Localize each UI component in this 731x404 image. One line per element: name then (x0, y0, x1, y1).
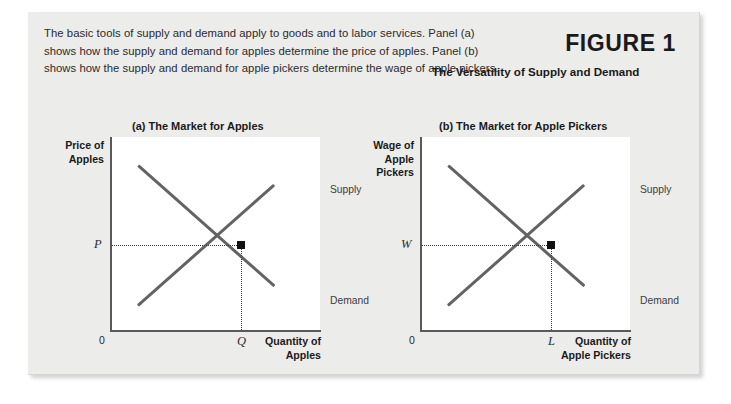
panel-a-equilibrium-point (237, 241, 245, 249)
panel-a-x-axis (110, 330, 321, 332)
panel-b-labor-guide (551, 245, 552, 330)
panel-a-y-axis-label: Price of Apples (34, 139, 104, 166)
panel-a-y-axis (110, 137, 112, 331)
panel-b-equilibrium-point (547, 241, 555, 249)
panel-b-wage-guide (422, 245, 551, 246)
panel-a-origin-label: 0 (99, 334, 105, 346)
panel-b-y-axis-label-line2: Apple (344, 153, 414, 167)
panel-a-price-marker: P (94, 237, 102, 252)
figure-subtitle: The Versatility of Supply and Demand (432, 64, 680, 80)
panel-a-y-axis-label-line2: Apples (34, 153, 104, 167)
panel-a-x-axis-label-line1: Quantity of (206, 335, 321, 349)
panel-b-x-axis (420, 330, 631, 332)
panel-b-title: (b) The Market for Apple Pickers (439, 120, 607, 132)
panel-b-labor-marker: L (548, 334, 555, 349)
panel-b-demand-label: Demand (640, 295, 679, 306)
panel-a-demand-label: Demand (330, 295, 369, 306)
panel-a-x-axis-label: Quantity of Apples (206, 335, 321, 362)
panel-b-y-axis-label: Wage of Apple Pickers (344, 139, 414, 180)
panel-a-quantity-guide (241, 245, 242, 330)
panel-a-title: (a) The Market for Apples (132, 120, 264, 132)
panel-a-x-axis-label-line2: Apples (206, 349, 321, 363)
panel-a-quantity-marker: Q (237, 334, 246, 349)
figure-number: FIGURE 1 (565, 30, 676, 57)
panel-b-y-axis-label-line1: Wage of (344, 139, 414, 153)
panel-a-price-guide (112, 245, 241, 246)
panel-b-origin-label: 0 (409, 334, 415, 346)
panel-b-x-axis-label: Quantity of Apple Pickers (506, 335, 631, 362)
figure-card: The basic tools of supply and demand app… (28, 12, 700, 375)
panel-b-x-axis-label-line2: Apple Pickers (506, 349, 631, 363)
figure-page: The basic tools of supply and demand app… (0, 0, 731, 404)
panel-b-x-axis-label-line1: Quantity of (506, 335, 631, 349)
panel-b-wage-marker: W (401, 237, 411, 252)
panel-b-y-axis-label-line3: Pickers (344, 166, 414, 180)
panel-a-y-axis-label-line1: Price of (34, 139, 104, 153)
panel-b-y-axis (420, 137, 422, 331)
panel-b-supply-label: Supply (640, 184, 671, 195)
panel-a-supply-label: Supply (330, 184, 361, 195)
